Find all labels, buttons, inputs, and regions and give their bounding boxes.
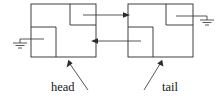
tail-label-group: tail (144, 60, 178, 94)
head-node (31, 4, 96, 57)
next-pointer-arrow (83, 12, 130, 18)
next-arrow-head (123, 12, 130, 18)
head-node-next-pointer-cell (70, 4, 96, 25)
head-label-group: head (51, 60, 88, 94)
prev-pointer-arrow (91, 38, 141, 44)
linked-list-diagram-figure: head tail (0, 0, 223, 98)
tail-leader-arrowhead (157, 60, 163, 67)
head-label: head (51, 80, 75, 94)
head-node-prev-pointer-cell (31, 27, 56, 57)
tail-leader-line (144, 64, 160, 90)
head-node-box (31, 4, 96, 57)
diagram-canvas: head tail (0, 0, 223, 98)
tail-label: tail (162, 80, 178, 94)
tail-node-prev-pointer-cell (128, 27, 153, 57)
null-ground-symbol-right (176, 16, 214, 25)
tail-node-next-pointer-cell (166, 4, 193, 25)
prev-arrow-head (91, 38, 98, 44)
tail-node (128, 4, 193, 57)
tail-node-box (128, 4, 193, 57)
null-ground-symbol-left (13, 39, 44, 48)
